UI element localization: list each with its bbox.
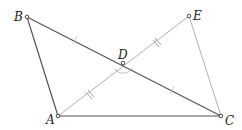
point-A bbox=[56, 114, 60, 118]
geometry-diagram: A B C D E bbox=[0, 0, 242, 130]
label-A: A bbox=[45, 113, 55, 127]
label-B: B bbox=[13, 10, 23, 24]
point-E bbox=[187, 14, 191, 18]
segment-BC bbox=[27, 17, 221, 116]
segment-AB bbox=[27, 17, 58, 116]
label-C: C bbox=[225, 114, 234, 128]
label-E: E bbox=[192, 9, 202, 23]
label-D: D bbox=[117, 48, 128, 62]
point-C bbox=[219, 114, 223, 118]
segment-EC bbox=[189, 16, 221, 116]
point-B bbox=[25, 15, 29, 19]
